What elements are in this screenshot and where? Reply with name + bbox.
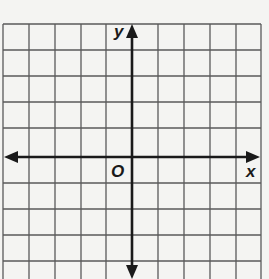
y-axis-down-arrow-icon [126,265,138,279]
x-axis-left-arrow-icon [4,151,18,163]
origin-label: O [111,163,124,180]
grid-svg [0,0,269,279]
y-axis-up-arrow-icon [126,24,138,38]
y-axis [126,24,138,279]
y-axis-label: y [114,23,123,40]
coordinate-plane: y x O [0,0,269,279]
x-axis-label: x [246,163,255,180]
